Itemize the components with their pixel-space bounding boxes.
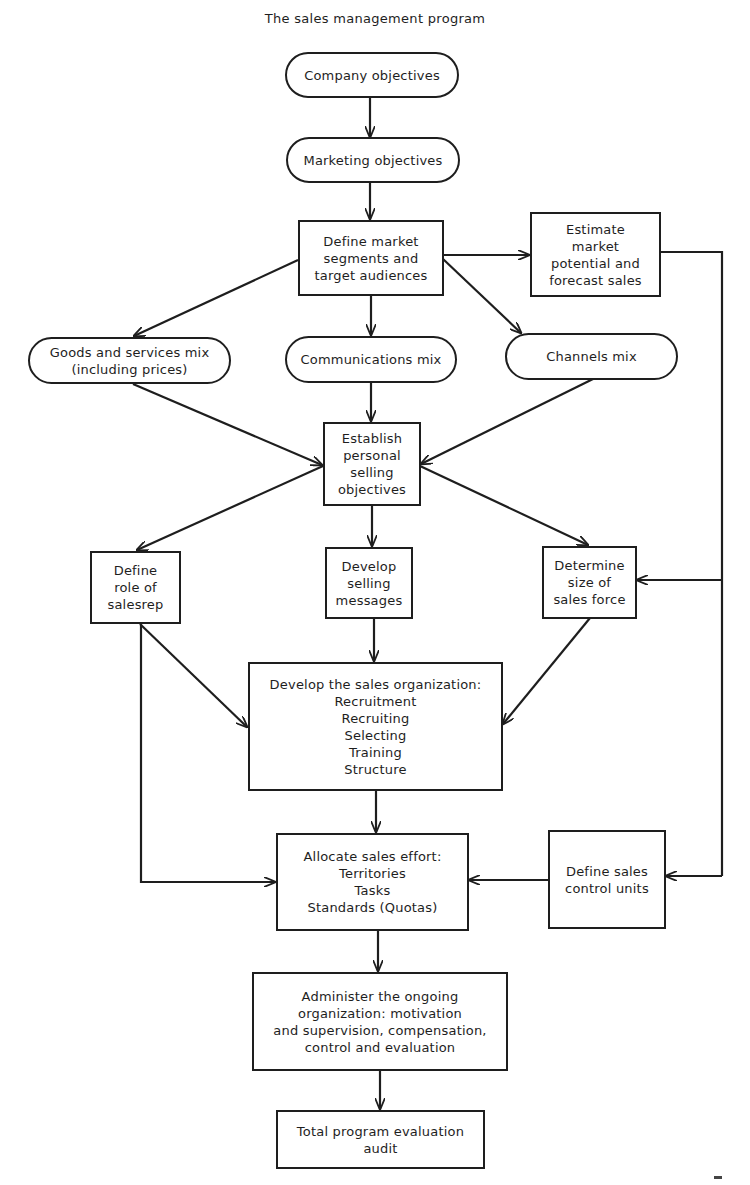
edge-establish-to-size [420, 466, 588, 545]
edge-role-to-organization [140, 624, 247, 727]
node-develop-sales-organization: Develop the sales organization: Recruitm… [248, 662, 503, 791]
node-label: Recruitment [334, 693, 416, 710]
node-label: Tasks [355, 882, 391, 899]
node-label: size of [568, 574, 611, 591]
node-estimate-market-potential: Estimate market potential and forecast s… [530, 212, 661, 297]
node-label: target audiences [314, 267, 427, 284]
node-company-objectives: Company objectives [285, 52, 459, 98]
node-label: Define [114, 562, 158, 579]
node-label: role of [114, 579, 157, 596]
node-label: audit [363, 1140, 397, 1157]
page-corner-mark [714, 1176, 722, 1179]
node-label: objectives [338, 481, 406, 498]
node-define-market-segments: Define market segments and target audien… [298, 220, 444, 296]
node-label: (including prices) [71, 361, 187, 378]
node-label: Goods and services mix [50, 344, 210, 361]
node-label: Territories [339, 865, 406, 882]
node-label: messages [336, 592, 403, 609]
node-total-program-evaluation: Total program evaluation audit [276, 1110, 485, 1169]
node-label: salesrep [107, 596, 163, 613]
node-label: personal [343, 447, 401, 464]
node-label: Channels mix [546, 348, 637, 365]
node-label: Structure [344, 761, 406, 778]
node-label: Establish [342, 430, 402, 447]
node-label: Training [349, 744, 402, 761]
node-label: Selecting [344, 727, 406, 744]
node-label: Determine [554, 557, 625, 574]
node-label: Define sales [566, 863, 648, 880]
node-label: Estimate [566, 221, 625, 238]
edge-segments-to-channels [443, 259, 521, 333]
node-develop-selling-messages: Develop selling messages [325, 547, 413, 619]
node-label: Allocate sales effort: [304, 848, 442, 865]
node-establish-selling-objectives: Establish personal selling objectives [323, 422, 421, 506]
node-label: selling [347, 575, 391, 592]
node-label: and supervision, compensation, [273, 1022, 486, 1039]
node-define-sales-control-units: Define sales control units [548, 830, 666, 929]
node-label: forecast sales [549, 272, 642, 289]
node-label: Marketing objectives [303, 152, 442, 169]
edge-establish-to-role [137, 466, 323, 550]
node-allocate-sales-effort: Allocate sales effort: Territories Tasks… [276, 833, 469, 931]
node-label: Recruiting [342, 710, 410, 727]
node-label: market [572, 238, 619, 255]
node-label: Develop [342, 558, 397, 575]
node-label: Administer the ongoing [302, 988, 459, 1005]
node-channels-mix: Channels mix [505, 333, 678, 380]
edge-channels-to-establish [421, 379, 593, 464]
node-define-role-salesrep: Define role of salesrep [90, 551, 181, 624]
node-label: control and evaluation [305, 1039, 456, 1056]
node-label: control units [565, 880, 649, 897]
node-label: Total program evaluation [297, 1123, 464, 1140]
node-communications-mix: Communications mix [285, 336, 457, 383]
node-goods-services-mix: Goods and services mix (including prices… [28, 337, 231, 384]
node-label: Company objectives [304, 67, 440, 84]
node-label: potential and [551, 255, 640, 272]
node-label: Communications mix [301, 351, 442, 368]
node-administer-organization: Administer the ongoing organization: mot… [252, 972, 508, 1071]
edge-segments-to-goods [134, 260, 298, 336]
node-label: segments and [324, 250, 419, 267]
node-label: sales force [553, 591, 625, 608]
node-label: Develop the sales organization: [270, 676, 482, 693]
edge-goods-to-establish [133, 384, 322, 465]
node-marketing-objectives: Marketing objectives [286, 137, 460, 183]
node-determine-sales-force-size: Determine size of sales force [542, 546, 637, 619]
node-label: Standards (Quotas) [307, 899, 437, 916]
node-label: organization: motivation [298, 1005, 462, 1022]
node-label: Define market [323, 233, 418, 250]
edge-size-to-organization [503, 618, 590, 724]
node-label: selling [350, 464, 394, 481]
